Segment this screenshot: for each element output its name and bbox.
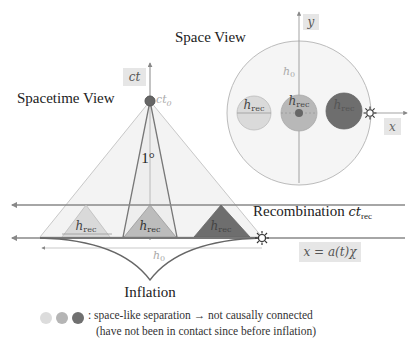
inflation-curve xyxy=(40,238,262,280)
legend-separator: : xyxy=(88,309,91,321)
legend-dot-dark xyxy=(72,312,84,324)
legend-dots xyxy=(40,309,88,323)
h0-spacetime-label: h0 xyxy=(153,249,165,263)
observer-star-icon xyxy=(255,231,269,245)
legend-line-1: : space-like separation → not causally c… xyxy=(40,308,316,324)
legend: : space-like separation → not causally c… xyxy=(40,308,316,338)
observer-dot-space xyxy=(295,109,303,117)
ct-label: ct xyxy=(129,70,141,84)
observer-star-icon-space xyxy=(364,107,377,120)
observer-dot xyxy=(145,96,155,106)
recombination-label: Recombination ctrec xyxy=(253,203,372,221)
ct0-label: ct0 xyxy=(156,93,172,108)
legend-text-1: space-like separation → not causally con… xyxy=(94,309,313,321)
spacetime-view-title: Spacetime View xyxy=(17,90,115,106)
space-view-title: Space View xyxy=(175,29,246,45)
comoving-label: x = a(t)χ xyxy=(303,245,357,259)
legend-dot-light xyxy=(40,312,52,324)
y-label: y xyxy=(307,15,315,29)
x-label: x xyxy=(389,120,396,134)
legend-line-2: (have not been in contact since before i… xyxy=(40,324,316,338)
inflation-title: Inflation xyxy=(124,284,176,300)
cosmology-diagram: ct ct0 1° hrec hrec hrec h0 xyxy=(0,0,415,343)
space-view: Space View y x h0 hrec hrec hrec xyxy=(175,12,407,185)
angle-label: 1° xyxy=(141,150,155,166)
legend-dot-medium xyxy=(56,312,68,324)
